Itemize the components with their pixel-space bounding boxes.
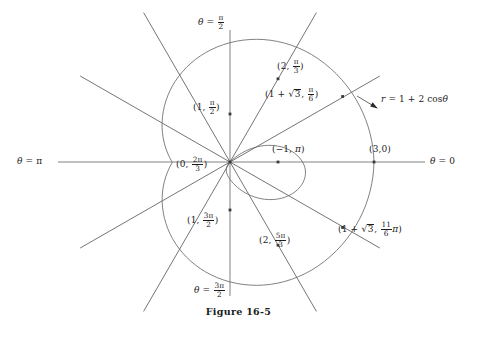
equation-rhs: 1 + 2 cos — [399, 94, 443, 104]
paren-close-02pi3: ) — [204, 159, 208, 169]
denominator-2: 2 — [218, 23, 225, 31]
equals-sign-left: = — [26, 156, 34, 166]
comma-sqrt3pi6: , — [301, 89, 304, 99]
r-value-neg1pi: −1 — [276, 144, 289, 154]
pi-value-left: π — [36, 156, 42, 166]
fraction-11-over-6: 11 6 — [381, 221, 392, 237]
denominator-3-02pi3: 3 — [192, 165, 204, 173]
dot-3-0 — [373, 161, 376, 164]
dot-1-pi2 — [229, 113, 232, 116]
r-symbol: r — [381, 94, 385, 104]
point-label-1-pi2: (1, π 2 ) — [193, 99, 220, 115]
arrow-head-icon — [370, 102, 378, 108]
comma-11pi6: , — [374, 224, 380, 234]
paren-close-1pi2: ) — [216, 102, 220, 112]
point-label-2-pi3: (2, π 3 ) — [277, 58, 304, 74]
point-label-1sqrt3-pi6: (1 + √3, π 6 ) — [265, 86, 318, 102]
denominator-3-2pi3: 3 — [293, 67, 300, 75]
point-label-1-3pi2: (1, 3π 2 ) — [187, 212, 218, 228]
paren-close-11pi6: ) — [398, 224, 402, 234]
r-value-sqrt3pi6: 1 + — [269, 89, 288, 99]
fraction-2pi-over-3: 2π 3 — [192, 156, 204, 172]
axis-label-theta-equals-zero: θ = 0 — [430, 157, 455, 166]
sqrt-symbol-11pi6: √3 — [361, 224, 374, 234]
equation-equals-sign: = — [388, 94, 396, 104]
dot-1sqrt3-pi6 — [341, 95, 344, 98]
comma-2pi3: , — [286, 61, 289, 71]
theta-symbol-left: θ — [17, 156, 23, 166]
comma-1pi2: , — [202, 102, 205, 112]
paren-close-neg1pi: ) — [301, 144, 305, 154]
denominator-3-25pi3: 3 — [275, 241, 287, 249]
fraction-pi-over-3: π 3 — [293, 58, 300, 74]
point-label-1sqrt3-11pi6: (1 + √3, 11 6 π) — [338, 221, 402, 237]
point-label-neg1-pi: (−1, π) — [272, 145, 305, 154]
axis-label-theta-equals-3pi-over-2: θ = 3π 2 — [194, 282, 226, 298]
r-value-11pi6: 1 + — [342, 224, 361, 234]
fraction-3pi-over-2: 3π 2 — [214, 282, 226, 298]
dot-0-2pi3 — [229, 161, 232, 164]
dot-2-pi3 — [277, 77, 280, 80]
theta-symbol-bottom: θ — [194, 285, 200, 295]
comma-02pi3: , — [185, 159, 188, 169]
denominator-2-bottom: 2 — [214, 291, 226, 299]
dot-1-3pi2 — [229, 209, 232, 212]
comma-neg1pi: , — [289, 144, 292, 154]
point-label-2-5pi3: (2, 5π 3 ) — [259, 232, 290, 248]
axis-label-theta-equals-pi: θ = π — [17, 157, 42, 166]
fraction-pi-over-2: π 2 — [218, 14, 225, 30]
point-label-3-0: (3,0) — [369, 145, 391, 154]
equals-sign-right: = — [439, 156, 447, 166]
figure-container: θ = π 2 θ = 3π 2 θ = π θ = 0 r = 1 + 2 c… — [0, 0, 477, 337]
figure-caption: Figure 16-5 — [0, 306, 477, 317]
comma-25pi3: , — [268, 235, 271, 245]
radicand-3-pi6: 3 — [294, 89, 301, 99]
equals-sign-bottom: = — [203, 285, 211, 295]
fraction-3pi-over-2-point: 3π 2 — [203, 212, 215, 228]
denominator-2-13pi2: 2 — [203, 221, 215, 229]
paren-close-2pi3: ) — [300, 61, 304, 71]
denominator-2-1pi2: 2 — [209, 108, 216, 116]
equation-theta-symbol: θ — [443, 94, 449, 104]
fraction-pi-over-2-point: π 2 — [209, 99, 216, 115]
fraction-pi-over-6: π 6 — [308, 86, 315, 102]
sqrt-symbol-pi6: √3 — [288, 89, 301, 99]
denominator-6-11pi6: 6 — [381, 230, 392, 238]
point-label-0-2pi3: (0, 2π 3 ) — [176, 156, 207, 172]
paren-close-25pi3: ) — [287, 235, 291, 245]
theta-symbol-top: θ — [198, 17, 204, 27]
paren-close-30: ) — [387, 144, 391, 154]
equals-sign-top: = — [207, 17, 215, 27]
zero-value-right: 0 — [449, 156, 455, 166]
radicand-3-11pi6: 3 — [367, 224, 374, 234]
axis-label-theta-equals-pi-over-2: θ = π 2 — [198, 14, 225, 30]
theta-symbol-right: θ — [430, 156, 436, 166]
equation-label: r = 1 + 2 cosθ — [381, 95, 448, 104]
dot-neg1-pi — [277, 161, 280, 164]
polar-plot-svg — [0, 0, 477, 337]
comma-13pi2: , — [196, 215, 199, 225]
fraction-5pi-over-3: 5π 3 — [275, 232, 287, 248]
paren-close-sqrt3pi6: ) — [315, 89, 319, 99]
paren-close-13pi2: ) — [215, 215, 219, 225]
denominator-6-sqrt3pi6: 6 — [308, 95, 315, 103]
